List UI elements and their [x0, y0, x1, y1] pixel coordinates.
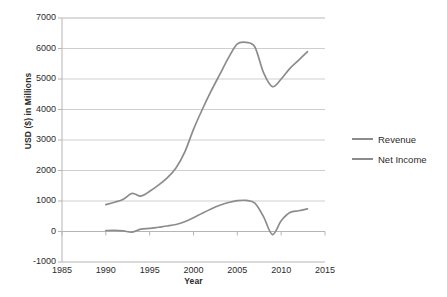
- y-tick-marks: [58, 18, 62, 262]
- line-chart: 70006000500040003000200010000-1000 19851…: [0, 0, 447, 297]
- x-tick-label-text: 2005: [217, 266, 257, 275]
- chart-legend: Revenue Net Income: [352, 131, 444, 171]
- x-tick-label-text: 2015: [305, 266, 345, 275]
- legend-label-net-income: Net Income: [378, 154, 427, 165]
- y-tick-label-text: 5000: [36, 74, 56, 83]
- y-tick-label-text: 7000: [36, 13, 56, 22]
- y-tick-label-text: 2000: [36, 166, 56, 175]
- x-tick-label-text: 2000: [174, 266, 214, 275]
- x-tick-label-text: 1995: [130, 266, 170, 275]
- x-tick-label-text: 2010: [261, 266, 301, 275]
- y-tick-label-text: 0: [51, 227, 56, 236]
- x-axis-title: Year: [62, 276, 325, 286]
- y-tick-label-text: 6000: [36, 44, 56, 53]
- data-series-group: [106, 42, 308, 235]
- y-axis-title: USD ($) in Millions: [23, 31, 33, 191]
- gridlines: [62, 18, 325, 232]
- legend-item-net-income: Net Income: [352, 151, 444, 167]
- legend-line-swatch-net-income: [352, 158, 373, 160]
- y-tick-label-text: 4000: [36, 105, 56, 114]
- x-tick-label-text: 1985: [42, 266, 82, 275]
- legend-line-swatch-revenue: [352, 138, 373, 140]
- x-tick-marks: [62, 232, 325, 236]
- x-tick-label-text: 1990: [86, 266, 126, 275]
- legend-item-revenue: Revenue: [352, 131, 444, 147]
- y-tick-label-text: 1000: [36, 196, 56, 205]
- legend-label-revenue: Revenue: [378, 134, 416, 145]
- y-tick-label-text: 3000: [36, 135, 56, 144]
